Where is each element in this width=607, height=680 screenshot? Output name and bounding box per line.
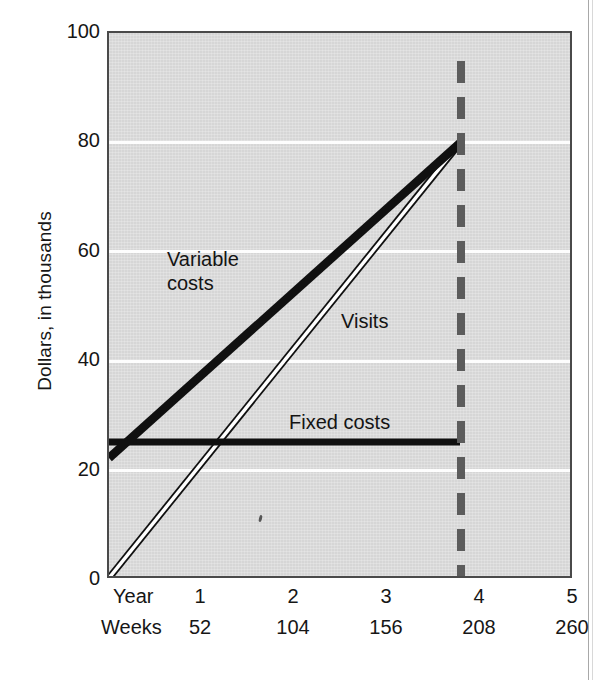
page-edge-artifact-soft bbox=[592, 0, 593, 680]
x-tick-year-5: 5 bbox=[566, 585, 577, 608]
series-visits bbox=[109, 143, 460, 578]
x-tick-year-3: 3 bbox=[380, 585, 391, 608]
page-edge-artifact bbox=[588, 0, 589, 680]
x-axis-weeks-row: Weeks 52 104 156 208 260 bbox=[0, 616, 607, 646]
x-tick-weeks-208: 208 bbox=[462, 616, 495, 639]
break-even-chart-figure: Dollars, in thousands 100 80 60 40 20 0 bbox=[0, 0, 607, 680]
chart-series-svg bbox=[109, 33, 572, 578]
series-variable-costs bbox=[109, 143, 460, 458]
annotation-visits: Visits bbox=[341, 310, 388, 334]
x-tick-weeks-260: 260 bbox=[555, 616, 588, 639]
y-axis-tick-labels: 100 80 60 40 20 0 bbox=[38, 0, 100, 680]
y-tick-100: 100 bbox=[42, 20, 100, 43]
y-tick-80: 80 bbox=[42, 129, 100, 152]
x-axis-year-row-label: Year bbox=[113, 585, 153, 608]
y-tick-60: 60 bbox=[42, 239, 100, 262]
x-tick-weeks-104: 104 bbox=[276, 616, 309, 639]
x-axis-weeks-row-label: Weeks bbox=[101, 616, 162, 639]
x-tick-year-1: 1 bbox=[194, 585, 205, 608]
x-axis-year-row: Year 1 2 3 4 5 bbox=[0, 585, 607, 615]
x-tick-weeks-52: 52 bbox=[189, 616, 211, 639]
annotation-variable-costs: Variable costs bbox=[167, 248, 239, 295]
annotation-fixed-costs: Fixed costs bbox=[289, 411, 390, 435]
x-tick-year-2: 2 bbox=[287, 585, 298, 608]
x-tick-weeks-156: 156 bbox=[369, 616, 402, 639]
y-tick-40: 40 bbox=[42, 348, 100, 371]
y-tick-20: 20 bbox=[42, 458, 100, 481]
x-tick-year-4: 4 bbox=[473, 585, 484, 608]
x-axis-label-rows: Year 1 2 3 4 5 Weeks 52 104 156 208 260 bbox=[0, 585, 607, 655]
plot-area: Variable costs Visits Fixed costs Break-… bbox=[107, 31, 572, 578]
